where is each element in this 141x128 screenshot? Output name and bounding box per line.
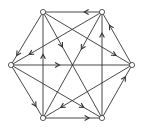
edges [11,10,132,121]
edge-D-C [102,65,132,118]
directed-hexagon-graph [0,0,141,128]
node-C [129,62,134,67]
node-E [40,115,45,120]
node-F [8,62,13,67]
node-B [99,9,104,14]
edge-A-F [11,12,43,65]
edge-F-E [11,65,43,118]
node-A [40,9,45,14]
node-D [99,115,104,120]
edge-C-B [102,12,132,65]
